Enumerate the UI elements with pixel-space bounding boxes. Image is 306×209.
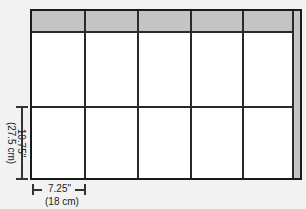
width-cm: (18 cm) [45,196,79,207]
grid-diagram [30,9,302,180]
dimension-cap [16,178,28,180]
height-cm: (27.5 cm) [6,122,16,164]
width-inches: 7.25" [48,183,71,194]
column-divider [84,11,86,178]
height-inches: 10.75" [16,122,26,164]
dimension-cap [16,106,28,108]
column-divider [190,11,192,178]
dimension-segment [32,189,42,191]
column-divider [137,11,139,178]
header-row [32,11,300,33]
row-divider [32,106,292,108]
column-divider [242,11,244,178]
dimension-cap [84,184,86,195]
right-strip [292,11,300,178]
